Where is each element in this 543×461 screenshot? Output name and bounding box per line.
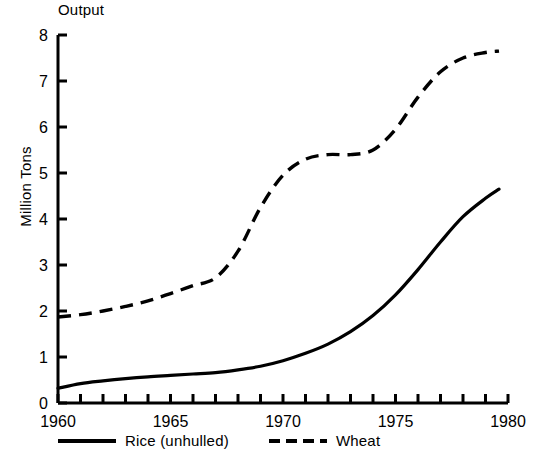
chart-legend: Rice (unhulled) Wheat — [58, 432, 508, 449]
chart-container: Output Million Tons 012345678 1960196519… — [0, 0, 543, 461]
x-axis-tick-labels: 19601965197019751980 — [40, 413, 526, 430]
svg-text:4: 4 — [39, 211, 48, 228]
svg-text:0: 0 — [39, 395, 48, 412]
legend-swatch-dashed-icon — [269, 435, 327, 447]
series-line-rice — [58, 189, 499, 388]
legend-swatch-solid-icon — [58, 435, 116, 447]
svg-text:3: 3 — [39, 257, 48, 274]
svg-text:1965: 1965 — [153, 413, 189, 430]
plot-area: 012345678 19601965197019751980 — [0, 0, 543, 430]
svg-text:6: 6 — [39, 119, 48, 136]
svg-text:8: 8 — [39, 27, 48, 44]
svg-text:1980: 1980 — [490, 413, 526, 430]
svg-text:1: 1 — [39, 349, 48, 366]
legend-label-wheat: Wheat — [336, 432, 380, 449]
svg-text:7: 7 — [39, 73, 48, 90]
svg-text:5: 5 — [39, 165, 48, 182]
legend-label-rice: Rice (unhulled) — [125, 432, 229, 449]
svg-text:1970: 1970 — [265, 413, 301, 430]
svg-text:1960: 1960 — [40, 413, 76, 430]
svg-text:1975: 1975 — [378, 413, 414, 430]
y-axis-tick-labels: 012345678 — [39, 27, 48, 412]
legend-item-rice: Rice (unhulled) — [58, 432, 229, 449]
svg-text:2: 2 — [39, 303, 48, 320]
series-line-wheat — [58, 51, 499, 317]
legend-item-wheat: Wheat — [269, 432, 380, 449]
